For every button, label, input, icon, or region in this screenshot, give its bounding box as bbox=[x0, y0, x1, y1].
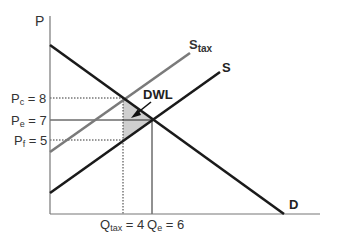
qtax-label: Qtax = 4 bbox=[100, 217, 144, 233]
pc-label: Pc = 8 bbox=[11, 91, 46, 107]
dwl-label: DWL bbox=[143, 87, 173, 102]
supply-tax-curve bbox=[50, 53, 190, 152]
qtax-label-main: Q bbox=[100, 217, 110, 232]
dwl-diagram: P DWL Stax S D Pc = 8 Pe = 7 Pf = 5 Qtax… bbox=[0, 0, 343, 241]
pe-label: Pe = 7 bbox=[11, 113, 47, 129]
qe-label-main: Q bbox=[147, 217, 157, 232]
qtax-label-value: = 4 bbox=[122, 217, 144, 232]
supply-tax-label: Stax bbox=[189, 37, 213, 54]
pf-label: Pf = 5 bbox=[14, 133, 47, 149]
y-axis-label: P bbox=[35, 13, 44, 29]
pe-label-value: = 7 bbox=[25, 113, 47, 128]
pf-label-value: = 5 bbox=[25, 133, 47, 148]
pc-label-value: = 8 bbox=[24, 91, 46, 106]
pc-label-main: P bbox=[11, 91, 20, 106]
supply-tax-label-sub: tax bbox=[198, 43, 213, 54]
qe-label-value: = 6 bbox=[162, 217, 184, 232]
qtax-label-sub: tax bbox=[110, 223, 123, 233]
qe-label: Qe = 6 bbox=[147, 217, 184, 233]
supply-label: S bbox=[222, 60, 231, 75]
pe-label-main: P bbox=[11, 113, 20, 128]
pf-label-main: P bbox=[14, 133, 23, 148]
supply-tax-label-main: S bbox=[189, 37, 198, 52]
demand-label: D bbox=[289, 197, 298, 212]
